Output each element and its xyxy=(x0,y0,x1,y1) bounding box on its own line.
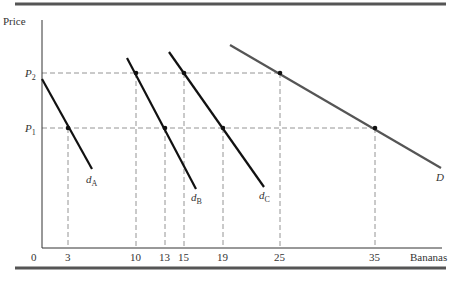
tick-13: 13 xyxy=(159,251,171,263)
tick-25: 25 xyxy=(274,251,286,263)
label-dA: dA xyxy=(86,173,98,188)
equilibrium-points xyxy=(66,71,378,131)
tick-35: 35 xyxy=(369,251,381,263)
tick-10: 10 xyxy=(130,251,142,263)
p1-label: P1 xyxy=(24,122,36,137)
curve-dA xyxy=(42,79,92,169)
tick-15: 15 xyxy=(178,251,190,263)
label-D: D xyxy=(435,171,444,183)
tick-19: 19 xyxy=(217,251,229,263)
y-axis-label: Price xyxy=(3,15,26,27)
x-axis-label: Bananas xyxy=(410,251,447,263)
curve-D xyxy=(230,45,441,168)
p2-label: P2 xyxy=(24,67,36,82)
demand-chart: Price Bananas P2 P1 0 3 10 13 15 19 25 3… xyxy=(0,0,463,281)
tick-3: 3 xyxy=(65,251,71,263)
label-dB: dB xyxy=(191,191,202,206)
tick-0: 0 xyxy=(31,251,37,263)
curve-dB xyxy=(127,58,196,189)
label-dC: dC xyxy=(259,189,270,204)
